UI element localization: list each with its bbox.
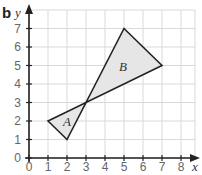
y-tick-label: 5 [14, 59, 21, 73]
triangle-b-label: B [119, 59, 127, 74]
coordinate-diagram: 01234567801234567 b y x A B [0, 0, 202, 174]
y-tick-label: 6 [14, 40, 21, 54]
x-tick-label: 5 [121, 160, 128, 174]
axis-tick-labels: 01234567801234567 [14, 22, 184, 175]
y-tick-label: 1 [14, 133, 21, 147]
x-tick-label: 0 [26, 160, 33, 174]
x-tick-label: 3 [83, 160, 90, 174]
x-axis-name: x [191, 159, 198, 174]
x-tick-label: 4 [102, 160, 109, 174]
x-tick-label: 8 [178, 160, 185, 174]
y-tick-label: 0 [14, 151, 21, 165]
triangle-a-label: A [62, 114, 71, 129]
x-tick-label: 7 [159, 160, 166, 174]
x-tick-label: 6 [140, 160, 147, 174]
part-label: b [2, 4, 11, 21]
y-tick-label: 3 [14, 96, 21, 110]
y-tick-label: 2 [14, 114, 21, 128]
y-axis-name: y [13, 5, 21, 20]
x-tick-label: 2 [64, 160, 71, 174]
y-tick-label: 4 [14, 77, 21, 91]
y-tick-label: 7 [14, 22, 21, 36]
x-tick-label: 1 [45, 160, 52, 174]
y-axis-arrow-icon [25, 4, 33, 14]
